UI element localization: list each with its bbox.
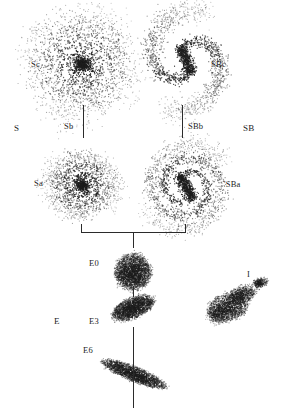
galaxy-E3 bbox=[110, 293, 157, 323]
label-type-E6: E6 bbox=[83, 346, 93, 355]
bracket-stem bbox=[133, 232, 134, 248]
label-type-Sb: Sb bbox=[64, 122, 73, 131]
label-class-SB: SB bbox=[243, 124, 254, 133]
label-type-SBc: SBc bbox=[211, 60, 226, 69]
label-type-Sc: Sc bbox=[31, 60, 40, 69]
label-type-SBb: SBb bbox=[188, 122, 203, 131]
stem-Sb bbox=[83, 105, 84, 138]
hubble-tuning-fork-diagram: SSBScSBcSbSBbSa'SBaEE0E3E6I bbox=[0, 0, 297, 420]
galaxy-I bbox=[205, 277, 269, 327]
label-type-E3: E3 bbox=[89, 317, 99, 326]
stem-E0-E3 bbox=[133, 286, 134, 297]
label-type-SBa: 'SBa bbox=[224, 180, 241, 189]
stem-SBb bbox=[182, 105, 183, 138]
label-type-Sa: Sa bbox=[34, 179, 43, 188]
galaxy-Sa bbox=[36, 148, 130, 224]
label-class-E: E bbox=[54, 317, 60, 326]
label-class-I: I bbox=[247, 270, 250, 279]
stem-E3-E6 bbox=[133, 327, 134, 408]
galaxy-illustrations bbox=[0, 0, 297, 420]
label-class-S: S bbox=[14, 124, 19, 133]
label-type-E0: E0 bbox=[89, 259, 99, 268]
galaxy-E6 bbox=[100, 358, 170, 390]
